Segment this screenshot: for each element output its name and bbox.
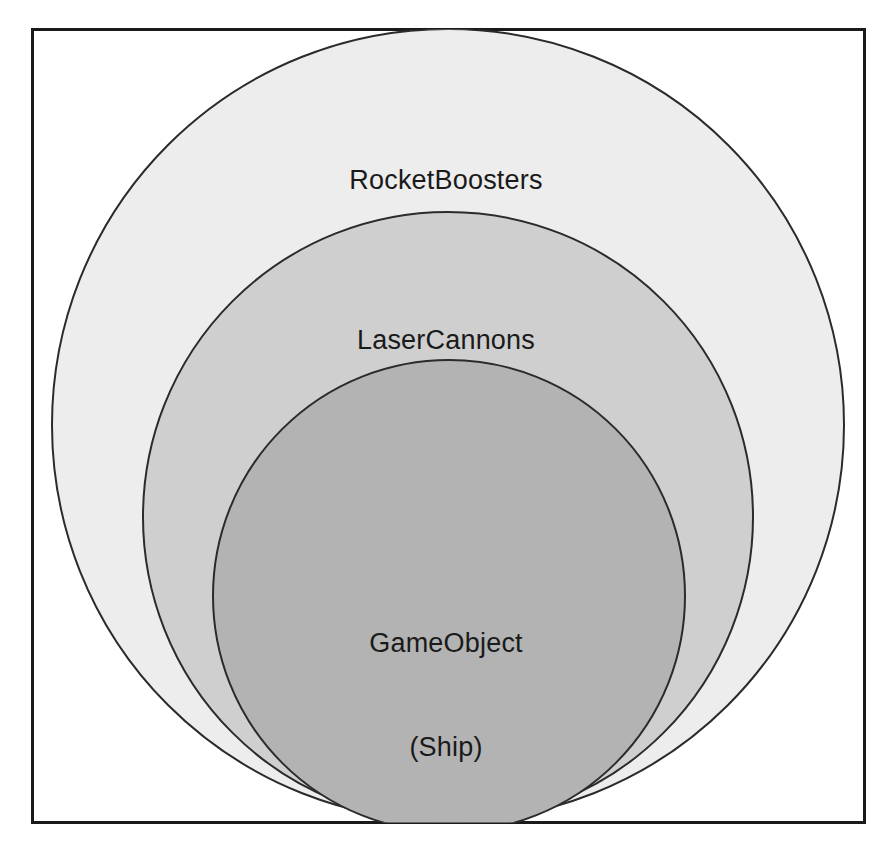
label-rocketboosters: RocketBoosters xyxy=(0,163,892,198)
label-gameobject-line1: GameObject xyxy=(0,626,892,661)
label-lasercannons: LaserCannons xyxy=(0,323,892,358)
diagram-canvas: RocketBoosters LaserCannons GameObject (… xyxy=(0,0,892,853)
label-gameobject-line2: (Ship) xyxy=(0,730,892,765)
label-gameobject: GameObject (Ship) xyxy=(0,557,892,833)
